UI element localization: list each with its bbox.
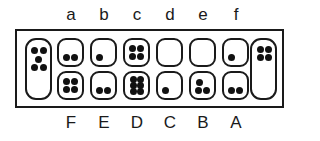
stone-icon xyxy=(203,87,210,94)
pit-label-C: C xyxy=(157,113,183,133)
pit-label-e: e xyxy=(190,5,216,25)
pit-D[interactable] xyxy=(123,71,150,100)
stone-icon xyxy=(63,78,70,85)
pit-A[interactable] xyxy=(222,71,249,100)
stone-icon xyxy=(40,64,47,71)
stone-icon xyxy=(40,47,47,54)
stone-icon xyxy=(31,47,38,54)
stone-icon xyxy=(63,54,70,61)
stone-icon xyxy=(257,46,264,53)
stone-icon xyxy=(96,54,103,61)
stone-icon xyxy=(104,87,111,94)
stone-icon xyxy=(71,86,78,93)
pit-F[interactable] xyxy=(57,71,84,100)
pit-f[interactable] xyxy=(222,38,249,67)
stone-icon xyxy=(196,79,203,86)
stone-icon xyxy=(228,87,235,94)
stone-icon xyxy=(265,46,272,53)
pit-label-d: d xyxy=(157,5,183,25)
pit-label-f: f xyxy=(223,5,249,25)
stone-icon xyxy=(257,54,264,61)
stone-icon xyxy=(130,88,137,95)
pit-label-E: E xyxy=(91,113,117,133)
stone-icon xyxy=(96,87,103,94)
pit-label-D: D xyxy=(124,113,150,133)
stone-icon xyxy=(162,87,169,94)
stone-icon xyxy=(228,54,235,61)
stone-icon xyxy=(71,54,78,61)
pit-label-c: c xyxy=(124,5,150,25)
store-left[interactable] xyxy=(25,38,52,100)
pit-label-a: a xyxy=(58,5,84,25)
stone-icon xyxy=(195,87,202,94)
stone-icon xyxy=(31,64,38,71)
store-right[interactable] xyxy=(250,38,277,100)
pit-label-B: B xyxy=(190,113,216,133)
stone-icon xyxy=(129,45,136,52)
pit-d[interactable] xyxy=(156,38,183,67)
pit-label-b: b xyxy=(91,5,117,25)
pit-label-F: F xyxy=(58,113,84,133)
stone-icon xyxy=(63,86,70,93)
stone-icon xyxy=(35,56,42,63)
pit-label-A: A xyxy=(223,113,249,133)
stone-icon xyxy=(71,78,78,85)
stone-icon xyxy=(265,54,272,61)
stone-icon xyxy=(137,88,144,95)
pit-B[interactable] xyxy=(189,71,216,100)
pit-E[interactable] xyxy=(90,71,117,100)
pit-b[interactable] xyxy=(90,38,117,67)
stone-icon xyxy=(137,45,144,52)
stone-icon xyxy=(129,53,136,60)
pit-e[interactable] xyxy=(189,38,216,67)
pit-C[interactable] xyxy=(156,71,183,100)
stone-icon xyxy=(137,53,144,60)
pit-a[interactable] xyxy=(57,38,84,67)
stone-icon xyxy=(236,87,243,94)
pit-c[interactable] xyxy=(123,38,150,67)
